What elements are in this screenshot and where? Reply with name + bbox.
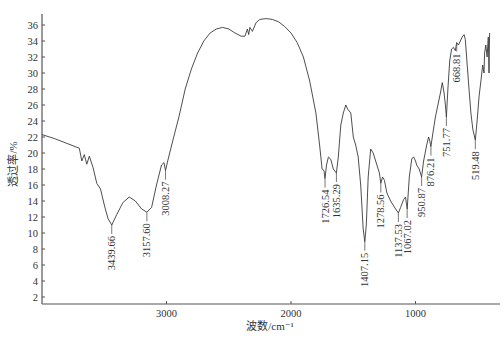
y-tick-label: 34	[28, 36, 39, 47]
y-tick-label: 18	[28, 164, 39, 175]
peak-label: 751.77	[441, 128, 452, 157]
ir-spectrum-chart: 24681012141618202224262830323436 3000200…	[0, 0, 504, 341]
y-tick-label: 36	[28, 20, 39, 31]
peak-label: 1635.29	[331, 184, 342, 218]
peak-label: 3008.27	[160, 182, 171, 216]
y-tick-label: 26	[28, 100, 39, 111]
peak-annotations: 3439.663157.603008.271726.541635.291407.…	[106, 43, 481, 287]
peak-label: 876.21	[425, 158, 436, 187]
peak-label: 1067.02	[402, 220, 413, 254]
y-tick-label: 16	[28, 180, 39, 191]
peak-label: 950.87	[416, 188, 427, 217]
y-tick-label: 20	[28, 148, 39, 159]
x-axis: 300020001000	[42, 301, 500, 319]
y-tick-label: 12	[28, 212, 39, 223]
y-tick-label: 30	[28, 68, 39, 79]
peak-label: 1407.15	[359, 253, 370, 287]
y-tick-label: 14	[28, 196, 39, 207]
y-tick-label: 32	[28, 52, 39, 63]
y-tick-label: 8	[33, 244, 38, 255]
peak-label: 1726.54	[320, 189, 331, 224]
y-axis-title: 透过率/%	[6, 141, 19, 186]
x-axis-title: 波数/cm⁻¹	[246, 320, 294, 332]
y-tick-label: 24	[28, 116, 39, 127]
peak-label: 3439.66	[106, 236, 117, 270]
y-tick-label: 6	[33, 260, 38, 271]
y-tick-label: 22	[28, 132, 39, 143]
peak-label: 3157.60	[141, 223, 152, 257]
x-tick-label: 2000	[281, 308, 302, 319]
y-tick-label: 28	[28, 84, 39, 95]
y-tick-label: 2	[33, 292, 38, 303]
x-tick-label: 3000	[156, 308, 177, 319]
peak-label: 1278.56	[375, 194, 386, 228]
y-tick-label: 10	[28, 228, 39, 239]
x-tick-label: 1000	[405, 308, 426, 319]
peak-label: 519.48	[470, 151, 481, 180]
y-tick-label: 4	[33, 276, 39, 287]
y-axis: 24681012141618202224262830323436	[28, 14, 46, 304]
peak-label: 668.81	[451, 54, 462, 83]
